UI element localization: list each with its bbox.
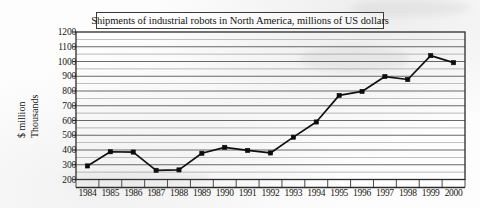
- grid-major-lines: [76, 47, 465, 165]
- data-point-1986: [131, 150, 135, 154]
- line-chart: Shipments of industrial robots in North …: [0, 0, 480, 208]
- data-point-1995: [337, 93, 341, 97]
- plot-canvas: [0, 0, 480, 208]
- data-point-1988: [177, 168, 181, 172]
- data-point-1993: [291, 135, 295, 139]
- data-point-1987: [154, 168, 158, 172]
- data-point-1989: [200, 151, 204, 155]
- data-point-1998: [406, 77, 410, 81]
- data-point-1997: [383, 74, 387, 78]
- data-point-1994: [314, 120, 318, 124]
- x-axis-tick-band: [76, 180, 465, 188]
- data-point-1985: [108, 150, 112, 154]
- data-point-2000: [451, 61, 455, 65]
- data-point-1990: [223, 145, 227, 149]
- data-point-1992: [268, 151, 272, 155]
- data-point-1991: [246, 148, 250, 152]
- data-point-1984: [85, 164, 89, 168]
- data-point-1999: [429, 54, 433, 58]
- data-point-1996: [360, 89, 364, 93]
